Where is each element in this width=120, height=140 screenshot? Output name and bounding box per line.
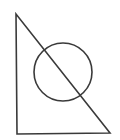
right-triangle	[16, 14, 110, 134]
geometry-diagram	[0, 0, 120, 140]
circle	[34, 43, 92, 101]
